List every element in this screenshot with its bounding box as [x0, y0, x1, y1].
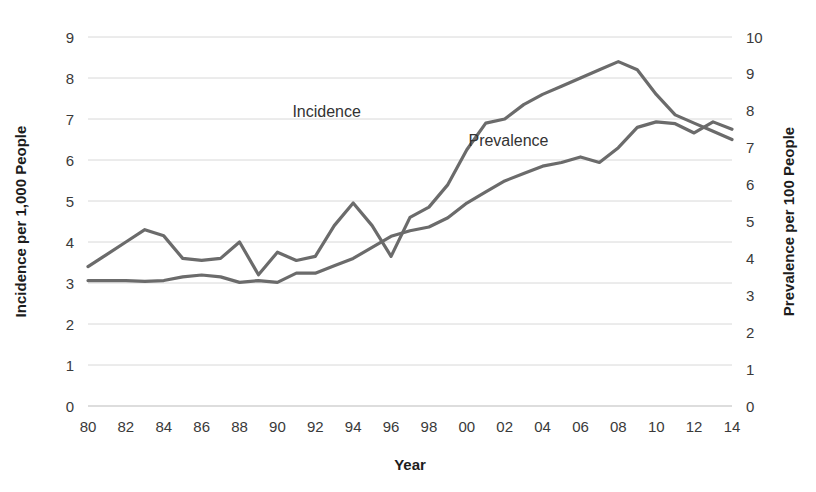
x-axis-tick-label: 14 — [724, 418, 741, 435]
x-axis-tick-label: 94 — [345, 418, 362, 435]
y-axis-tick-label: 1 — [66, 357, 74, 374]
y-axis-tick-label: 2 — [66, 316, 74, 333]
series-label-prevalence: Prevalence — [468, 132, 548, 149]
x-axis-tick-label: 88 — [231, 418, 248, 435]
y-axis-tick-label: 7 — [66, 111, 74, 128]
y-axis-tick-label: 4 — [66, 234, 74, 251]
x-axis-tick-label: 04 — [534, 418, 551, 435]
x-axis-tick-label: 80 — [80, 418, 97, 435]
x-axis-title: Year — [394, 456, 426, 473]
y-axis-tick-label: 0 — [66, 398, 74, 415]
x-axis-tick-label: 08 — [610, 418, 627, 435]
y2-axis-tick-label: 5 — [746, 213, 754, 230]
y2-axis-tick-label: 8 — [746, 102, 754, 119]
x-axis-tick-label: 90 — [269, 418, 286, 435]
x-axis-tick-label: 86 — [193, 418, 210, 435]
x-axis-tick-label: 10 — [648, 418, 665, 435]
y2-axis-tick-label: 9 — [746, 65, 754, 82]
y-axis-tick-label: 5 — [66, 193, 74, 210]
y2-axis-tick-label: 4 — [746, 250, 754, 267]
y2-axis-tick-label: 0 — [746, 398, 754, 415]
y2-axis-tick-label: 3 — [746, 287, 754, 304]
x-axis-tick-label: 98 — [421, 418, 438, 435]
x-axis-tick-label: 06 — [572, 418, 589, 435]
y-axis-tick-label: 8 — [66, 70, 74, 87]
chart-figure: 0123456789 012345678910 8082848688909294… — [0, 0, 816, 492]
y2-axis-title: Prevalence per 100 People — [780, 127, 797, 316]
y-axis-title: Incidence per 1,000 People — [12, 126, 29, 318]
y-axis-tick-label: 3 — [66, 275, 74, 292]
y2-axis-tick-label: 2 — [746, 324, 754, 341]
x-axis-tick-label: 00 — [458, 418, 475, 435]
x-axis-tick-label: 84 — [155, 418, 172, 435]
x-axis-tick-label: 96 — [383, 418, 400, 435]
series-label-incidence: Incidence — [292, 103, 361, 120]
y-axis-tick-label: 6 — [66, 152, 74, 169]
x-axis-tick-label: 92 — [307, 418, 324, 435]
y2-axis-tick-label: 6 — [746, 176, 754, 193]
x-axis-tick-label: 12 — [686, 418, 703, 435]
y-axis-tick-label: 9 — [66, 29, 74, 46]
y2-axis-tick-label: 7 — [746, 139, 754, 156]
x-axis-tick-label: 82 — [118, 418, 135, 435]
y2-axis-tick-label: 10 — [746, 29, 763, 46]
y2-axis-tick-label: 1 — [746, 361, 754, 378]
x-axis-tick-label: 02 — [496, 418, 513, 435]
